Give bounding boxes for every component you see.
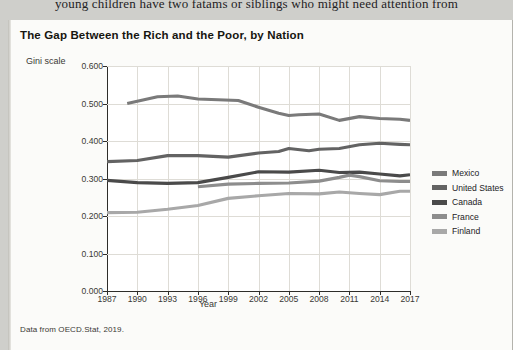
y-tick-label: 0.100: [57, 249, 103, 259]
legend-label: Mexico: [452, 168, 479, 178]
y-axis-ticks: 0.0000.1000.2000.3000.4000.5000.600: [55, 66, 103, 292]
y-tick-label: 0.200: [57, 211, 103, 221]
x-tickmark: [380, 291, 381, 295]
x-tickmark: [349, 291, 350, 295]
series-line-finland: [107, 191, 410, 212]
legend-item-canada[interactable]: Canada: [432, 195, 504, 210]
legend-swatch: [432, 171, 447, 176]
x-tickmark: [289, 291, 290, 295]
legend-swatch: [432, 214, 447, 219]
series-line-united-states: [107, 143, 410, 161]
x-tickmark: [228, 291, 229, 295]
legend-swatch: [432, 229, 447, 234]
x-tickmark: [107, 291, 108, 295]
chart-title: The Gap Between the Rich and the Poor, b…: [20, 29, 304, 41]
x-tickmark: [198, 291, 199, 295]
y-tickmark: [103, 291, 107, 292]
legend-label: France: [452, 212, 479, 222]
x-tickmark: [137, 291, 138, 295]
series-lines: [107, 66, 410, 291]
legend-item-united-states[interactable]: United States: [432, 181, 504, 196]
y-tickmark: [103, 254, 107, 255]
x-axis-label: Year: [8, 299, 408, 309]
y-tick-label: 0.400: [57, 136, 103, 146]
legend-label: Canada: [452, 197, 482, 207]
series-line-mexico: [127, 96, 410, 120]
x-tickmark: [410, 291, 411, 295]
legend-item-finland[interactable]: Finland: [432, 224, 504, 239]
chart-legend: MexicoUnited StatesCanadaFranceFinland: [432, 166, 504, 239]
legend-swatch: [432, 185, 447, 190]
y-tickmark: [103, 66, 107, 67]
x-tickmark: [259, 291, 260, 295]
y-tick-label: 0.600: [57, 61, 103, 71]
figure-panel: The Gap Between the Rich and the Poor, b…: [8, 20, 513, 350]
y-tickmark: [103, 141, 107, 142]
source-note: Data from OECD.Stat, 2019.: [20, 325, 124, 334]
y-tickmark: [103, 104, 107, 105]
legend-label: Finland: [452, 226, 480, 236]
y-tick-label: 0.500: [57, 99, 103, 109]
page-running-text: young children have two fatams or siblin…: [0, 0, 513, 12]
legend-swatch: [432, 200, 447, 205]
legend-label: United States: [452, 183, 504, 193]
x-tickmark: [168, 291, 169, 295]
x-tickmark: [319, 291, 320, 295]
y-tick-label: 0.300: [57, 174, 103, 184]
legend-item-mexico[interactable]: Mexico: [432, 166, 504, 181]
y-tickmark: [103, 216, 107, 217]
legend-item-france[interactable]: France: [432, 210, 504, 225]
y-tickmark: [103, 179, 107, 180]
gridline-vertical: [410, 66, 411, 291]
screenshot-root: young children have two fatams or siblin…: [0, 0, 513, 350]
